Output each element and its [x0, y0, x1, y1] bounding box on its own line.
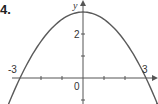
y-tick-label-2: 2 [74, 29, 80, 40]
x-tick-label-neg3: -3 [8, 64, 17, 75]
parabola-graph: -3 3 2 0 y [0, 0, 158, 104]
origin-label: 0 [74, 81, 80, 92]
y-axis-label: y [72, 0, 78, 11]
x-tick-label-3: 3 [142, 64, 148, 75]
